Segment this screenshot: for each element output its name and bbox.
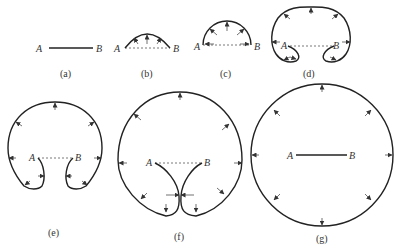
closed-arc (8, 102, 102, 189)
panel-a: A B (a) (35, 43, 102, 80)
panel-f: A B (f) (118, 92, 242, 243)
label-a: A (113, 43, 121, 54)
label-b: B (173, 43, 179, 54)
caption-d: (d) (303, 68, 315, 80)
arc (125, 34, 170, 48)
caption-c: (c) (220, 68, 231, 80)
panel-e: A B (e) (8, 102, 102, 239)
caption-g: (g) (316, 233, 328, 245)
panel-g: A B (g) (251, 84, 393, 245)
closed-arc (272, 7, 351, 62)
panel-d: A B (d) (272, 7, 351, 80)
label-b: B (75, 152, 81, 163)
label-a: A (280, 40, 288, 51)
label-b: B (333, 40, 339, 51)
label-a: A (145, 157, 153, 168)
label-b: B (254, 41, 260, 52)
caption-a: (a) (60, 68, 71, 80)
label-a: A (286, 150, 294, 161)
crack-growth-diagram: A B (a) A B (b) A B (c) A B (0, 0, 396, 251)
label-b: B (204, 157, 210, 168)
label-a: A (28, 152, 36, 163)
panel-b: A B (b) (113, 34, 179, 80)
label-b: B (349, 150, 355, 161)
label-b: B (96, 43, 102, 54)
caption-b: (b) (141, 68, 153, 80)
caption-e: (e) (48, 227, 59, 239)
label-a: A (35, 43, 43, 54)
closed-arc (118, 92, 242, 216)
label-a: A (193, 41, 201, 52)
caption-f: (f) (174, 231, 184, 243)
panel-c: A B (c) (193, 21, 260, 80)
